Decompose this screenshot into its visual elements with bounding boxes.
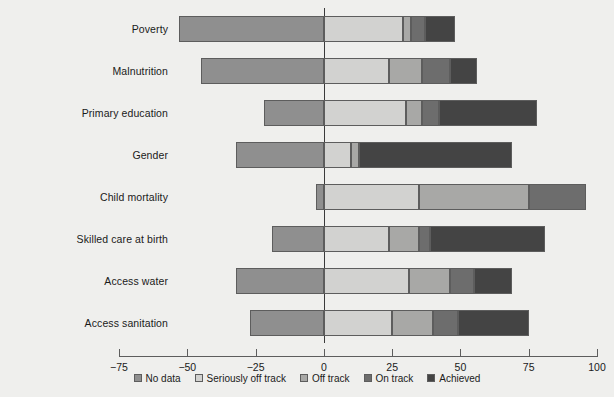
bar-segment-off-track [389, 58, 422, 84]
bar-segment-off-track [403, 16, 411, 42]
legend-label: Achieved [439, 373, 480, 384]
x-axis-tick [460, 349, 461, 357]
bar-segment-achieved [425, 16, 455, 42]
bar-segment-off-track [392, 310, 433, 336]
bar-segment-no-data [272, 226, 324, 252]
bar-row [0, 142, 614, 168]
bar-segment-off-track [389, 226, 419, 252]
bar-segment-on-track [433, 310, 458, 336]
legend-swatch-icon [427, 374, 435, 382]
bar-row [0, 310, 614, 336]
bar-segment-no-data [316, 184, 324, 210]
bar-segment-on-track [422, 100, 438, 126]
bar-row [0, 226, 614, 252]
x-axis-tick [324, 349, 325, 357]
x-axis-tick [597, 349, 598, 357]
x-axis-tick [392, 349, 393, 357]
bar-segment-achieved [359, 142, 512, 168]
bar-segment-seriously-off-track [324, 100, 406, 126]
legend-label: Seriously off track [207, 373, 286, 384]
bar-segment-off-track [419, 184, 528, 210]
x-axis-tick [119, 349, 120, 357]
bar-segment-off-track [409, 268, 450, 294]
bar-segment-on-track [411, 16, 425, 42]
legend-item-off-track[interactable]: Off track [300, 373, 350, 384]
legend-swatch-icon [134, 374, 142, 382]
legend-swatch-icon [300, 374, 308, 382]
bar-segment-on-track [450, 268, 475, 294]
bar-segment-achieved [458, 310, 529, 336]
legend-item-seriously-off-track[interactable]: Seriously off track [195, 373, 286, 384]
bar-row [0, 16, 614, 42]
bar-segment-on-track [422, 58, 449, 84]
legend-label: On track [376, 373, 414, 384]
bar-segment-no-data [179, 16, 324, 42]
bar-segment-seriously-off-track [324, 268, 409, 294]
bar-segment-on-track [419, 226, 430, 252]
legend-item-no-data[interactable]: No data [134, 373, 181, 384]
bar-segment-on-track [529, 184, 586, 210]
chart-container: PovertyMalnutritionPrimary educationGend… [0, 0, 614, 397]
legend-item-achieved[interactable]: Achieved [427, 373, 480, 384]
x-axis: −75−50−250255075100 [0, 348, 614, 362]
bar-segment-off-track [351, 142, 359, 168]
bar-segment-no-data [201, 58, 324, 84]
legend-swatch-icon [195, 374, 203, 382]
bar-segment-no-data [264, 100, 324, 126]
legend-label: No data [146, 373, 181, 384]
chart-legend: No dataSeriously off trackOff trackOn tr… [0, 370, 614, 386]
bar-segment-achieved [474, 268, 512, 294]
bar-segment-no-data [250, 310, 324, 336]
bar-segment-seriously-off-track [324, 16, 403, 42]
bar-segment-seriously-off-track [324, 226, 390, 252]
bar-segment-achieved [439, 100, 537, 126]
bar-segment-seriously-off-track [324, 58, 390, 84]
bar-segment-seriously-off-track [324, 310, 392, 336]
bar-segment-achieved [430, 226, 545, 252]
legend-swatch-icon [364, 374, 372, 382]
legend-label: Off track [312, 373, 350, 384]
x-axis-tick [187, 349, 188, 357]
bar-segment-off-track [406, 100, 422, 126]
bar-row [0, 184, 614, 210]
bar-segment-seriously-off-track [324, 184, 420, 210]
bar-row [0, 58, 614, 84]
bar-segment-no-data [236, 142, 323, 168]
x-axis-tick [529, 349, 530, 357]
bar-segment-no-data [236, 268, 323, 294]
x-axis-tick [256, 349, 257, 357]
x-axis-line [119, 356, 597, 357]
plot-area: PovertyMalnutritionPrimary educationGend… [0, 0, 614, 345]
legend-item-on-track[interactable]: On track [364, 373, 414, 384]
bar-segment-achieved [450, 58, 477, 84]
bar-row [0, 100, 614, 126]
bar-row [0, 268, 614, 294]
bar-segment-seriously-off-track [324, 142, 351, 168]
